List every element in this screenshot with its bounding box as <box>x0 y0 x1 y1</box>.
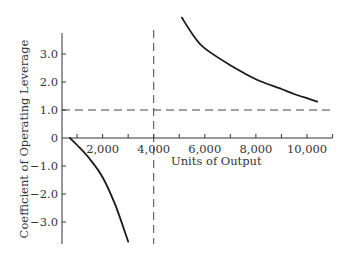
y-tick-label: −2.0 <box>30 187 58 201</box>
y-tick-label: −1.0 <box>30 159 58 173</box>
x-axis-label: Units of Output <box>171 154 262 168</box>
dol-curve-above-break-even <box>182 18 317 102</box>
x-tick-label: 10,000 <box>287 142 327 156</box>
x-tick-label: 2,000 <box>86 142 119 156</box>
x-tick-label: 4,000 <box>137 142 170 156</box>
y-axis-label: Coefficient of Operating Leverage <box>17 39 31 238</box>
y-tick-label: 1.0 <box>40 103 58 117</box>
dol-curves <box>70 18 317 242</box>
y-axis-ticks: 3.02.01.00−1.0−2.0−3.0 <box>30 47 66 229</box>
y-tick-label: 0 <box>51 131 58 145</box>
y-tick-label: 2.0 <box>40 75 58 89</box>
x-axis-ticks: 2,0004,0006,0008,00010,000 <box>77 134 332 156</box>
y-tick-label: −3.0 <box>30 215 58 229</box>
axes <box>62 33 333 244</box>
y-tick-label: 3.0 <box>40 47 58 61</box>
operating-leverage-chart: 2,0004,0006,0008,00010,000 3.02.01.00−1.… <box>0 0 348 264</box>
